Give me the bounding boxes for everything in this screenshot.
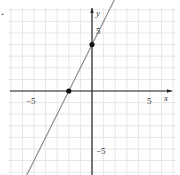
- y-axis-label: y: [96, 9, 100, 18]
- x-tick-label-pos5: 5: [147, 97, 152, 106]
- bullet-mark: .: [1, 5, 4, 17]
- y-axis-arrow-icon: [90, 8, 93, 13]
- x-tick-label-neg5: −5: [26, 97, 36, 106]
- y-tick-label-pos5: 5: [96, 27, 101, 36]
- x-intercept-point: [66, 88, 71, 93]
- y-intercept-point: [89, 42, 94, 47]
- coordinate-plane: [0, 0, 180, 175]
- y-tick-label-neg5: −5: [96, 147, 106, 156]
- x-axis-label: x: [164, 94, 168, 103]
